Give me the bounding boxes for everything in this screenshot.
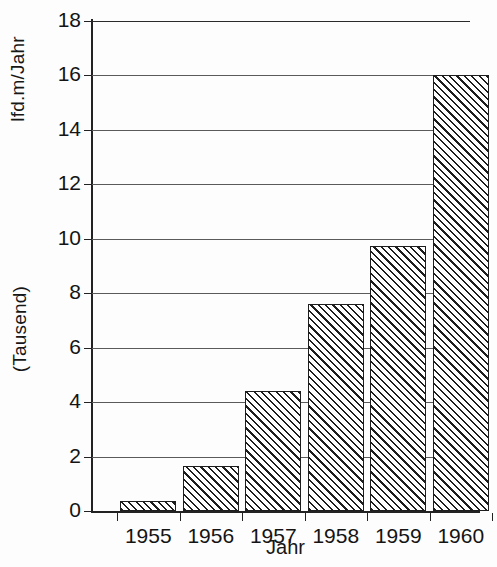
y-tick-mark [84, 239, 92, 240]
y-tick-mark [84, 457, 92, 458]
y-tick-mark [84, 293, 92, 294]
x-axis-title: Jahr [91, 536, 480, 559]
y-axis-line [91, 19, 93, 513]
gridline [91, 130, 470, 131]
y-tick-mark [84, 184, 92, 185]
y-tick-label: 2 [69, 445, 81, 467]
x-tick-mark [492, 513, 493, 521]
bar-1960 [433, 75, 489, 511]
y-tick-label: 4 [69, 390, 81, 412]
y-tick-mark [84, 402, 92, 403]
y-tick-label: 16 [58, 63, 81, 85]
bar-1958 [308, 304, 364, 511]
y-tick-label: 12 [58, 172, 81, 194]
x-tick-mark [242, 513, 243, 521]
x-tick-mark [117, 513, 118, 521]
bar-chart-figure: lfd.m/Jahr (Tausend) 024681012141618 195… [0, 0, 497, 567]
plot-area: 024681012141618 195519561957195819591960 [91, 19, 480, 513]
y-tick-label: 6 [69, 336, 81, 358]
gridline [91, 184, 470, 185]
x-tick-mark [305, 513, 306, 521]
x-axis-line [91, 511, 480, 513]
bar-1957 [245, 391, 301, 511]
y-tick-label: 10 [58, 227, 81, 249]
y-tick-mark [84, 130, 92, 131]
y-tick-label: 18 [58, 9, 81, 31]
y-tick-mark [84, 511, 92, 512]
y-tick-label: 14 [58, 118, 81, 140]
y-axis-label-unit: lfd.m/Jahr [7, 29, 29, 129]
bar-1959 [370, 246, 426, 511]
x-tick-mark [430, 513, 431, 521]
x-tick-mark [180, 513, 181, 521]
y-tick-mark [84, 21, 92, 22]
x-tick-mark [367, 513, 368, 521]
y-tick-mark [84, 75, 92, 76]
bar-1956 [183, 466, 239, 511]
gridline [91, 239, 470, 240]
bar-1955 [120, 501, 176, 511]
y-tick-label: 0 [69, 499, 81, 521]
y-axis-label-scale: (Tausend) [9, 279, 31, 379]
y-tick-mark [84, 348, 92, 349]
y-tick-label: 8 [69, 281, 81, 303]
gridline [91, 21, 470, 22]
gridline [91, 75, 470, 76]
